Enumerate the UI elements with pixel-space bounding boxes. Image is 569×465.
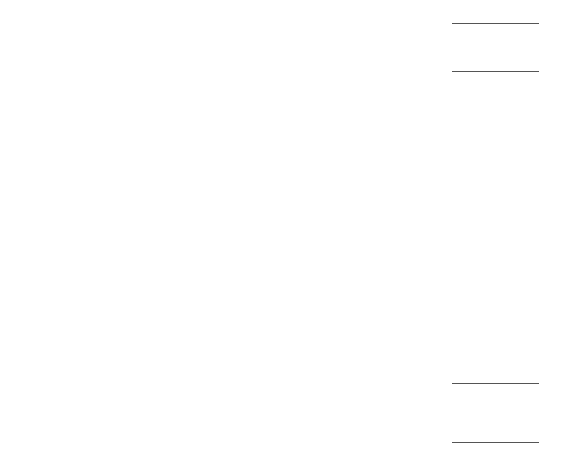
section-divider-top (452, 23, 539, 24)
section-divider-upper (452, 71, 539, 72)
knitting-chart-grid (37, 24, 452, 443)
section-divider-bottom (452, 442, 539, 443)
section-divider-lower (452, 383, 539, 384)
